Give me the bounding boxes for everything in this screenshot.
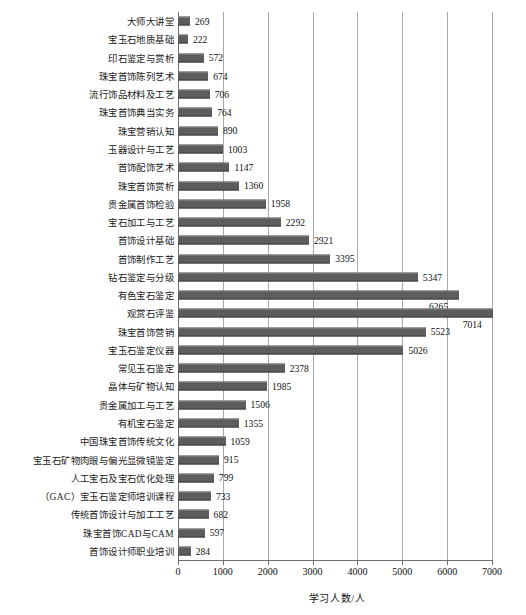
bar-row: 首饰制作工艺3395: [0, 249, 526, 267]
bar-value-label: 2292: [286, 217, 305, 227]
x-tick-mark: [178, 560, 179, 565]
category-label: 贵金属首饰检验: [108, 197, 174, 211]
bar-value-label: 1059: [231, 436, 250, 446]
bar-and-value: 5026: [178, 345, 428, 354]
bar-row: 珠宝首饰典当实务764: [0, 103, 526, 121]
x-tick-mark: [447, 560, 448, 565]
x-tick-mark: [223, 560, 224, 565]
bar-value-label: 764: [217, 108, 231, 118]
category-label: 珠宝首饰陈列艺术: [99, 69, 174, 83]
x-tick-label: 3000: [303, 566, 323, 577]
x-axis-line: [178, 560, 492, 561]
bar-and-value: 682: [178, 510, 228, 519]
bar: [178, 528, 205, 537]
bar-and-value: 2378: [178, 364, 309, 373]
category-label: 宝玉石矿物肉眼与偏光显微镜鉴定: [33, 453, 174, 467]
bar-value-label: 2921: [314, 236, 333, 246]
bar-and-value: 269: [178, 17, 209, 26]
bar-and-value: 890: [178, 126, 237, 135]
bar: [178, 199, 266, 208]
bar-row: 首饰配饰艺术1147: [0, 158, 526, 176]
bar: [178, 108, 212, 117]
bar-and-value: 915: [178, 455, 238, 464]
category-label: 流行饰品材料及工艺: [89, 87, 174, 101]
bar-and-value: 1059: [178, 437, 250, 446]
bar: [178, 382, 267, 391]
x-tick-mark: [357, 560, 358, 565]
bar-value-label: 1360: [244, 181, 263, 191]
bar-and-value: 7014: [178, 309, 493, 318]
bar-value-label: 2378: [290, 363, 309, 373]
x-tick-label: 7000: [482, 566, 502, 577]
bar-row: 流行饰品材料及工艺706: [0, 85, 526, 103]
bar-and-value: 706: [178, 90, 229, 99]
x-axis-ticks: 01000200030004000500060007000: [0, 566, 526, 582]
category-label: 印石鉴定与赏析: [108, 51, 174, 65]
category-label: 首饰制作工艺: [118, 252, 174, 266]
category-label: 传统首饰设计与加工工艺: [71, 507, 174, 521]
bar-and-value: 1506: [178, 400, 270, 409]
bar-value-label: 1985: [272, 382, 291, 392]
x-tick-label: 6000: [437, 566, 457, 577]
bar-row: 有机宝石鉴定1355: [0, 414, 526, 432]
bar-value-label: 5523: [431, 327, 450, 337]
bar: [178, 35, 188, 44]
bar-value-label: 706: [215, 89, 229, 99]
bar: [178, 327, 426, 336]
bar: [178, 272, 418, 281]
bar-and-value: 3395: [178, 254, 354, 263]
bar-row: 传统首饰设计与加工工艺682: [0, 505, 526, 523]
x-axis-title: 学习人数/人: [0, 590, 526, 605]
bar-row: 宝石加工与工艺2292: [0, 213, 526, 231]
bar: [178, 90, 210, 99]
category-label: 珠宝首饰典当实务: [99, 105, 174, 119]
category-label: 珠宝首饰赏析: [118, 179, 174, 193]
bar: [178, 418, 239, 427]
bar: [178, 400, 246, 409]
bar-and-value: 1360: [178, 181, 263, 190]
bar-and-value: 284: [178, 546, 210, 555]
bar-row: 贵金属加工与工艺1506: [0, 396, 526, 414]
bar-value-label: 3395: [335, 254, 354, 264]
bar-value-label: 915: [224, 455, 238, 465]
bar-row: 珠宝首饰赏析1360: [0, 176, 526, 194]
bar-value-label: 5026: [408, 345, 427, 355]
bar-row: 晶体与矿物认知1985: [0, 377, 526, 395]
bar-and-value: 674: [178, 71, 228, 80]
bar: [178, 126, 218, 135]
x-tick-mark: [268, 560, 269, 565]
category-label: 玉器设计与工艺: [108, 142, 174, 156]
bar-row: 印石鉴定与赏析572: [0, 49, 526, 67]
bar-value-label: 1147: [234, 162, 253, 172]
x-tick-label: 1000: [213, 566, 233, 577]
bar-and-value: 2292: [178, 218, 305, 227]
bar-row: 珠宝首饰营销5523: [0, 323, 526, 341]
bar-row: 首饰设计基础2921: [0, 231, 526, 249]
bar-and-value: 1958: [178, 199, 290, 208]
bar: [178, 181, 239, 190]
category-label: 珠宝首饰CAD与CAM: [83, 526, 174, 540]
bar-and-value: 1355: [178, 418, 263, 427]
bar-and-value: 597: [178, 528, 224, 537]
bar-value-label: 674: [213, 71, 227, 81]
x-axis-title-label: 学习人数/人: [309, 590, 365, 605]
bar: [178, 254, 330, 263]
bar-value-label: 1506: [251, 400, 270, 410]
bar-row: 有色宝石鉴定6265: [0, 286, 526, 304]
bar: [178, 17, 190, 26]
bar: [178, 236, 309, 245]
category-label: 中国珠宝首饰传统文化: [80, 434, 174, 448]
bar-value-label: 269: [195, 16, 209, 26]
bar-row: 大师大讲堂269: [0, 12, 526, 30]
category-label: 首饰配饰艺术: [118, 160, 174, 174]
bar-and-value: 1985: [178, 382, 291, 391]
bar-row: 常见玉石鉴定2378: [0, 359, 526, 377]
bar-value-label: 5347: [423, 272, 442, 282]
bar-and-value: 5523: [178, 327, 450, 336]
bar-and-value: 764: [178, 108, 232, 117]
bar: [178, 218, 281, 227]
bar-row: 人工宝石及宝石优化处理799: [0, 469, 526, 487]
bar: [178, 309, 493, 318]
x-tick-mark: [402, 560, 403, 565]
bar-rows: 大师大讲堂269宝玉石地质基础222印石鉴定与赏析572珠宝首饰陈列艺术674流…: [0, 12, 526, 560]
